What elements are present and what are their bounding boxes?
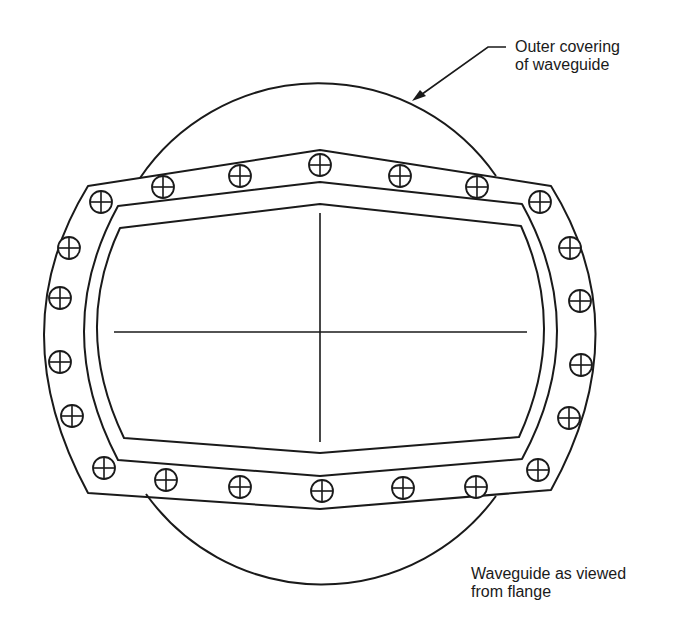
bolt-icon bbox=[558, 407, 580, 429]
diagram-caption-line2: from flange bbox=[471, 583, 626, 601]
bolt-icon bbox=[465, 476, 487, 498]
bolt-icon bbox=[527, 459, 549, 481]
bolt-icon bbox=[229, 476, 251, 498]
bolt-icon bbox=[466, 176, 488, 198]
bolt-icon bbox=[389, 165, 411, 187]
bolt-icon bbox=[309, 154, 331, 176]
bolt-icon bbox=[93, 457, 115, 479]
bolt-icon bbox=[90, 191, 112, 213]
leader-arrow-icon bbox=[412, 47, 506, 101]
bolt-icon bbox=[155, 469, 177, 491]
bolt-icon bbox=[311, 480, 333, 502]
outer-covering-label: Outer covering of waveguide bbox=[515, 38, 620, 74]
waveguide-flange-diagram bbox=[0, 0, 696, 634]
bolt-icon bbox=[61, 405, 83, 427]
bolt-icon bbox=[569, 290, 591, 312]
diagram-caption: Waveguide as viewed from flange bbox=[471, 565, 626, 601]
bolt-icon bbox=[559, 237, 581, 259]
bolt-icon bbox=[570, 354, 592, 376]
bolt-icon bbox=[392, 477, 414, 499]
bolt-icon bbox=[152, 176, 174, 198]
bolt-icon bbox=[529, 191, 551, 213]
outer-covering-label-line1: Outer covering bbox=[515, 38, 620, 56]
outer-covering-label-line2: of waveguide bbox=[515, 56, 620, 74]
bolt-icon bbox=[229, 165, 251, 187]
diagram-caption-line1: Waveguide as viewed bbox=[471, 565, 626, 583]
bolt-icon bbox=[58, 237, 80, 259]
bolt-icon bbox=[49, 287, 71, 309]
bolt-icon bbox=[49, 351, 71, 373]
